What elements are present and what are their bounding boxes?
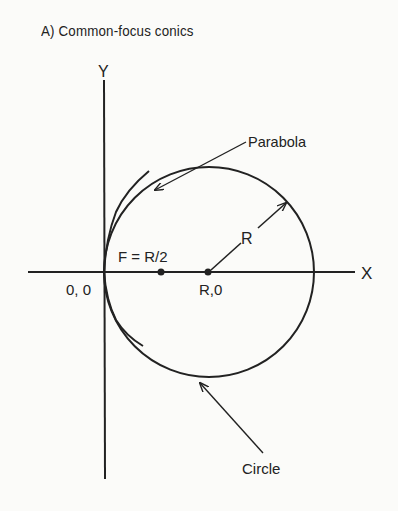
circle-leader-line (200, 383, 263, 453)
center-point (205, 269, 212, 276)
radius-arrow-lower (211, 243, 241, 270)
conics-diagram: Y X F = R/2 R,0 0, 0 R Parabola Circle (0, 0, 398, 511)
center-label: R,0 (199, 281, 222, 298)
radius-label: R (241, 230, 253, 247)
parabola-leader-line (155, 142, 246, 190)
parabola-label: Parabola (248, 134, 307, 150)
radius-arrow-upper (258, 203, 286, 228)
circle-label: Circle (242, 460, 280, 477)
focus-point (158, 269, 165, 276)
focus-label: F = R/2 (118, 248, 168, 265)
y-axis-label: Y (98, 63, 109, 80)
x-axis-label: X (361, 264, 372, 283)
origin-label: 0, 0 (66, 281, 91, 298)
